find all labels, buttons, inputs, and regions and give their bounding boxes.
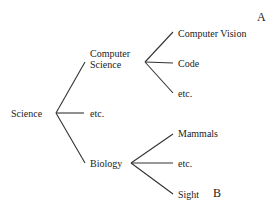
edge-cs-etc <box>145 62 173 93</box>
node-computer-science-line1: Computer <box>90 48 130 59</box>
marker-a: A <box>257 12 266 23</box>
edge-cs-computer-vision <box>145 32 173 62</box>
node-computer-science-line2: Science <box>90 59 121 70</box>
node-sight: Sight <box>178 189 199 200</box>
node-mammals: Mammals <box>178 128 218 139</box>
node-biology: Biology <box>90 158 122 169</box>
node-science: Science <box>11 108 42 119</box>
edge-science-computer-science <box>56 62 85 113</box>
edge-biology-mammals <box>131 134 173 163</box>
node-cs-etc: etc. <box>178 88 192 99</box>
edge-biology-sight <box>131 163 173 194</box>
marker-b: B <box>213 188 221 199</box>
node-computer-vision: Computer Vision <box>178 28 246 39</box>
node-code: Code <box>178 58 199 69</box>
node-science-etc: etc. <box>90 108 104 119</box>
node-biology-etc: etc. <box>178 158 192 169</box>
edge-cs-code <box>145 62 173 63</box>
edge-science-biology <box>56 113 85 163</box>
